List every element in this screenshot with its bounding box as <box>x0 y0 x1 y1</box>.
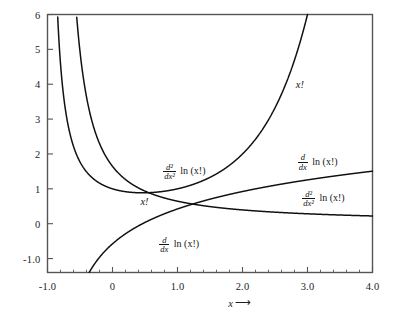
curve-label-first-derivative-right: d dx ln (x!) <box>298 154 338 172</box>
x-tick-label: 4.0 <box>366 281 380 292</box>
ln-expression: ln (x!) <box>180 166 205 177</box>
fraction-denominator: dx² <box>163 172 176 181</box>
axes-frame <box>48 15 373 273</box>
x-tick-label: 2.0 <box>236 281 250 292</box>
x-tick-label: 1.0 <box>171 281 185 292</box>
y-tick-label: 1 <box>35 183 40 194</box>
curve-label-x-factorial-upper: x! <box>296 79 304 90</box>
ln-expression: ln (x!) <box>312 156 337 167</box>
fraction-denominator: dx <box>298 163 308 172</box>
y-tick-label: -1.0 <box>23 253 40 264</box>
ln-expression: ln (x!) <box>174 239 199 250</box>
fraction-d2-dx2: d² dx² <box>302 190 315 208</box>
fraction-denominator: dx² <box>302 199 315 208</box>
fraction-denominator: dx <box>159 245 169 254</box>
curve-label-second-derivative-upper: d² dx² ln (x!) <box>163 163 205 181</box>
x-tick-label: -1.0 <box>39 281 56 292</box>
curve-label-second-derivative-right: d² dx² ln (x!) <box>302 190 344 208</box>
fraction-d-dx: d dx <box>298 153 308 171</box>
x-tick-label: 3.0 <box>301 281 315 292</box>
x-axis-symbol: x <box>228 298 233 309</box>
axis-ticks <box>48 15 373 273</box>
y-tick-label: 2 <box>35 148 40 159</box>
ln-expression: ln (x!) <box>319 193 344 204</box>
fraction-d-dx: d dx <box>159 236 169 254</box>
right-arrow-icon: ⟶ <box>235 296 251 308</box>
x-tick-label: 0 <box>110 281 115 292</box>
curves <box>58 15 373 273</box>
x-factorial-text: x! <box>296 79 304 90</box>
y-tick-label: 6 <box>35 9 40 20</box>
x-axis-label: x⟶ <box>228 297 249 310</box>
curve-label-x-factorial-lower: x! <box>140 196 148 207</box>
y-tick-label: 0 <box>35 218 40 229</box>
fraction-d2-dx2: d² dx² <box>163 163 176 181</box>
x-factorial-text: x! <box>140 196 148 207</box>
y-tick-label: 4 <box>35 79 40 90</box>
figure-container: 6543210-1.0 -1.001.02.03.04.0 x! x! d² d… <box>0 0 395 320</box>
curve-label-first-derivative-lower: d dx ln (x!) <box>159 236 199 254</box>
y-tick-label: 5 <box>35 44 40 55</box>
y-tick-label: 3 <box>35 114 40 125</box>
